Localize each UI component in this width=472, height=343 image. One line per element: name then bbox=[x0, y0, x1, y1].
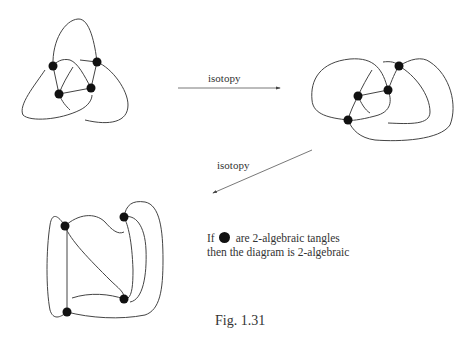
diagram-2 bbox=[312, 59, 453, 141]
note-prefix: If bbox=[207, 232, 215, 244]
tangle-dot-icon bbox=[219, 232, 230, 243]
note-line-2: then the diagram is 2-algebraic bbox=[207, 245, 349, 259]
figure-canvas bbox=[0, 0, 472, 343]
figure-caption: Fig. 1.31 bbox=[215, 313, 265, 329]
tangle-dot bbox=[49, 62, 58, 71]
diagram-1 bbox=[22, 19, 128, 123]
isotopy-label-1: isotopy bbox=[208, 73, 240, 84]
isotopy-label-2: isotopy bbox=[217, 160, 249, 171]
isotopy-arrow-down-left bbox=[213, 150, 312, 193]
diagram-3 bbox=[47, 202, 163, 318]
note-suffix: are 2-algebraic tangles bbox=[236, 232, 340, 244]
note-line-1: Ifare 2-algebraic tangles bbox=[207, 231, 340, 245]
